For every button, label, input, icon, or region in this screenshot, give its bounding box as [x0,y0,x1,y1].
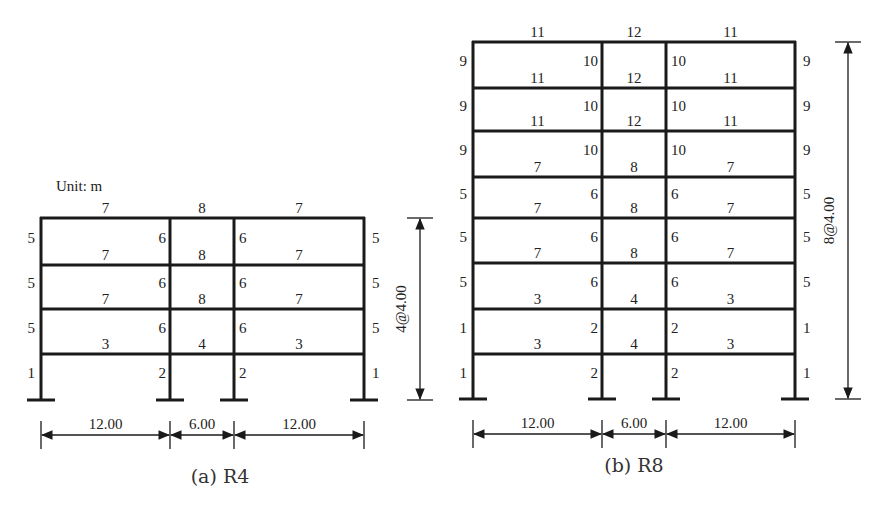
beam-section-label: 7 [295,247,303,263]
beam-section-label: 12 [627,70,642,86]
column-section-label: 9 [803,98,811,114]
column-section-label: 5 [803,274,811,290]
beam-section-label: 8 [630,245,638,261]
beam-section-label: 3 [727,336,735,352]
column-section-label: 5 [372,275,380,291]
column-section-label: 6 [159,275,167,291]
column-section-label: 6 [239,275,247,291]
beam-section-label: 7 [534,159,542,175]
column-section-label: 6 [591,186,599,202]
column-section-label: 6 [591,229,599,245]
beam-section-label: 3 [534,336,542,352]
beam-section-label: 7 [102,200,110,216]
frame-caption: (a) R4 [191,465,250,487]
beam-section-label: 12 [627,113,642,129]
column-section-label: 6 [671,229,679,245]
column-section-label: 5 [372,230,380,246]
beam-section-label: 8 [198,291,206,307]
beam-section-label: 7 [102,247,110,263]
frame-caption: (b) R8 [604,454,663,476]
column-section-label: 2 [671,320,679,336]
span-label: 6.00 [621,415,647,431]
beam-section-label: 3 [534,291,542,307]
column-section-label: 9 [803,142,811,158]
beam-section-label: 7 [295,291,303,307]
column-section-label: 9 [803,53,811,69]
beam-section-label: 4 [630,336,638,352]
beam-section-label: 7 [534,245,542,261]
span-label: 12.00 [282,416,316,432]
unit-label: Unit: m [56,178,103,194]
beam-section-label: 7 [727,245,735,261]
column-section-label: 1 [803,320,811,336]
beam-section-label: 7 [534,200,542,216]
column-section-label: 10 [671,98,686,114]
beam-section-label: 7 [295,200,303,216]
column-section-label: 10 [671,142,686,158]
span-label: 12.00 [714,415,748,431]
beam-section-label: 4 [198,336,206,352]
column-section-label: 5 [460,186,468,202]
height-label: 4@4.00 [393,285,409,333]
column-section-label: 9 [460,142,468,158]
column-section-label: 5 [28,230,36,246]
beam-section-label: 3 [727,291,735,307]
beam-section-label: 12 [627,24,642,40]
column-section-label: 2 [591,365,599,381]
column-section-label: 9 [460,53,468,69]
column-section-label: 5 [803,229,811,245]
column-section-label: 1 [28,365,36,381]
column-section-label: 5 [460,274,468,290]
beam-section-label: 11 [530,70,544,86]
frame-diagram: Unit: m 343787787787122156655665566512.0… [0,0,890,511]
beam-section-label: 4 [630,291,638,307]
beam-section-label: 3 [102,336,110,352]
column-section-label: 10 [583,98,598,114]
column-section-label: 1 [803,365,811,381]
span-label: 12.00 [89,416,123,432]
column-section-label: 2 [159,365,167,381]
column-section-label: 6 [239,230,247,246]
beam-section-label: 11 [723,70,737,86]
column-section-label: 5 [372,320,380,336]
column-section-label: 2 [239,365,247,381]
column-section-label: 5 [803,186,811,202]
column-section-label: 6 [159,230,167,246]
column-section-label: 5 [28,275,36,291]
column-section-label: 1 [372,365,380,381]
beam-section-label: 11 [723,24,737,40]
column-section-label: 9 [460,98,468,114]
column-section-label: 1 [460,320,468,336]
beam-section-label: 3 [295,336,303,352]
frame-r4: 343787787787122156655665566512.006.0012.… [27,200,433,487]
column-section-label: 6 [671,186,679,202]
beam-section-label: 8 [630,159,638,175]
beam-section-label: 11 [530,24,544,40]
span-label: 12.00 [521,415,555,431]
column-section-label: 2 [591,320,599,336]
height-label: 8@4.00 [821,197,837,245]
beam-section-label: 11 [723,113,737,129]
column-section-label: 1 [460,365,468,381]
column-section-label: 5 [460,229,468,245]
column-section-label: 10 [583,142,598,158]
column-section-label: 6 [671,274,679,290]
column-section-label: 6 [159,320,167,336]
beam-section-label: 7 [727,159,735,175]
beam-section-label: 7 [102,291,110,307]
column-section-label: 10 [583,53,598,69]
beam-section-label: 8 [630,200,638,216]
column-section-label: 5 [28,320,36,336]
column-section-label: 6 [591,274,599,290]
column-section-label: 6 [239,320,247,336]
beam-section-label: 8 [198,247,206,263]
column-section-label: 10 [671,53,686,69]
span-label: 6.00 [189,416,215,432]
column-section-label: 2 [671,365,679,381]
beam-section-label: 11 [530,113,544,129]
frame-r8: 3433437877877871112111112111112111221122… [459,24,861,476]
beam-section-label: 7 [727,200,735,216]
beam-section-label: 8 [198,200,206,216]
